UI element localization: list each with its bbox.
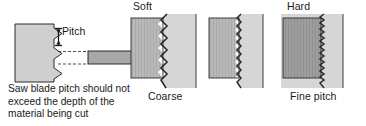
soft-panel-grain-half bbox=[131, 18, 164, 78]
label-soft: Soft bbox=[133, 0, 152, 12]
figure-caption: Saw blade pitch should not exceed the de… bbox=[8, 83, 143, 121]
middle-panel-grain-half bbox=[209, 18, 239, 78]
blade-block-group bbox=[15, 24, 62, 82]
panel-middle bbox=[209, 14, 263, 88]
hard-panel-dark-half bbox=[283, 18, 321, 78]
pitch-label: Pitch bbox=[62, 25, 85, 37]
label-coarse: Coarse bbox=[148, 90, 182, 102]
label-fine-pitch: Fine pitch bbox=[290, 90, 337, 102]
panel-soft-coarse bbox=[131, 14, 196, 88]
panel-hard-fine bbox=[281, 14, 343, 88]
saw-blade-body bbox=[15, 24, 62, 82]
label-hard: Hard bbox=[287, 0, 310, 12]
saw-blade-pitch-figure: Pitch Saw blade pitch should not exceed … bbox=[0, 0, 366, 126]
